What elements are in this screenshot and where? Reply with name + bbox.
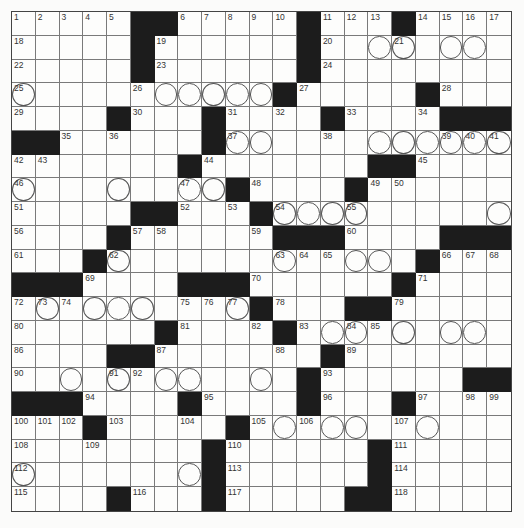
grid-cell[interactable]: 10: [273, 12, 297, 36]
grid-cell[interactable]: [60, 345, 84, 369]
grid-cell[interactable]: [250, 36, 274, 60]
grid-cell[interactable]: [131, 463, 155, 487]
grid-cell[interactable]: [321, 440, 345, 464]
grid-cell[interactable]: [226, 83, 250, 107]
grid-cell[interactable]: [487, 36, 511, 60]
grid-cell[interactable]: [83, 463, 107, 487]
grid-cell[interactable]: [487, 60, 511, 84]
grid-cell[interactable]: [60, 463, 84, 487]
grid-cell[interactable]: 35: [60, 131, 84, 155]
grid-cell[interactable]: [202, 416, 226, 440]
grid-cell[interactable]: [321, 155, 345, 179]
grid-cell[interactable]: 45: [416, 155, 440, 179]
grid-cell[interactable]: 17: [487, 12, 511, 36]
grid-cell[interactable]: 54: [273, 202, 297, 226]
grid-cell[interactable]: [345, 60, 369, 84]
grid-cell[interactable]: [487, 273, 511, 297]
grid-cell[interactable]: [250, 107, 274, 131]
grid-cell[interactable]: 50: [392, 178, 416, 202]
grid-cell[interactable]: 5: [107, 12, 131, 36]
grid-cell[interactable]: 74: [60, 297, 84, 321]
grid-cell[interactable]: [368, 131, 392, 155]
grid-cell[interactable]: [297, 345, 321, 369]
grid-cell[interactable]: [440, 60, 464, 84]
grid-cell[interactable]: [487, 83, 511, 107]
grid-cell[interactable]: 65: [321, 250, 345, 274]
grid-cell[interactable]: [321, 83, 345, 107]
grid-cell[interactable]: 25: [12, 83, 36, 107]
grid-cell[interactable]: 96: [321, 392, 345, 416]
grid-cell[interactable]: 67: [463, 250, 487, 274]
grid-cell[interactable]: [416, 368, 440, 392]
grid-cell[interactable]: [416, 487, 440, 511]
grid-cell[interactable]: [155, 273, 179, 297]
grid-cell[interactable]: [83, 60, 107, 84]
grid-cell[interactable]: 15: [440, 12, 464, 36]
grid-cell[interactable]: [226, 368, 250, 392]
grid-cell[interactable]: [321, 297, 345, 321]
grid-cell[interactable]: [250, 392, 274, 416]
grid-cell[interactable]: 58: [155, 226, 179, 250]
grid-cell[interactable]: [36, 345, 60, 369]
grid-cell[interactable]: 73: [36, 297, 60, 321]
grid-cell[interactable]: [36, 321, 60, 345]
grid-cell[interactable]: 63: [273, 250, 297, 274]
grid-cell[interactable]: 33: [345, 107, 369, 131]
grid-cell[interactable]: 56: [12, 226, 36, 250]
grid-cell[interactable]: [416, 463, 440, 487]
grid-cell[interactable]: [463, 273, 487, 297]
grid-cell[interactable]: [60, 321, 84, 345]
grid-cell[interactable]: [297, 178, 321, 202]
grid-cell[interactable]: [440, 463, 464, 487]
grid-cell[interactable]: [60, 83, 84, 107]
grid-cell[interactable]: 97: [416, 392, 440, 416]
grid-cell[interactable]: [202, 36, 226, 60]
grid-cell[interactable]: [202, 250, 226, 274]
grid-cell[interactable]: 21: [392, 36, 416, 60]
grid-cell[interactable]: [321, 178, 345, 202]
grid-cell[interactable]: [107, 463, 131, 487]
grid-cell[interactable]: [416, 60, 440, 84]
grid-cell[interactable]: [60, 36, 84, 60]
grid-cell[interactable]: [155, 83, 179, 107]
grid-cell[interactable]: [131, 273, 155, 297]
grid-cell[interactable]: [107, 297, 131, 321]
grid-cell[interactable]: 81: [178, 321, 202, 345]
grid-cell[interactable]: 89: [345, 345, 369, 369]
grid-cell[interactable]: [60, 440, 84, 464]
grid-cell[interactable]: [463, 155, 487, 179]
grid-cell[interactable]: [178, 131, 202, 155]
grid-cell[interactable]: [36, 226, 60, 250]
grid-cell[interactable]: [273, 416, 297, 440]
grid-cell[interactable]: [416, 321, 440, 345]
grid-cell[interactable]: [83, 155, 107, 179]
grid-cell[interactable]: [487, 487, 511, 511]
grid-cell[interactable]: [273, 392, 297, 416]
grid-cell[interactable]: [463, 345, 487, 369]
grid-cell[interactable]: [107, 440, 131, 464]
grid-cell[interactable]: [463, 416, 487, 440]
grid-cell[interactable]: 29: [12, 107, 36, 131]
grid-cell[interactable]: [440, 368, 464, 392]
grid-cell[interactable]: 108: [12, 440, 36, 464]
grid-cell[interactable]: [368, 250, 392, 274]
grid-cell[interactable]: [36, 463, 60, 487]
grid-cell[interactable]: [60, 60, 84, 84]
grid-cell[interactable]: [178, 345, 202, 369]
grid-cell[interactable]: [226, 392, 250, 416]
grid-cell[interactable]: 87: [155, 345, 179, 369]
grid-cell[interactable]: [131, 440, 155, 464]
grid-cell[interactable]: [178, 226, 202, 250]
grid-cell[interactable]: 86: [12, 345, 36, 369]
grid-cell[interactable]: 117: [226, 487, 250, 511]
grid-cell[interactable]: 98: [463, 392, 487, 416]
grid-cell[interactable]: [107, 202, 131, 226]
grid-cell[interactable]: [131, 297, 155, 321]
grid-cell[interactable]: [368, 107, 392, 131]
grid-cell[interactable]: [107, 178, 131, 202]
grid-cell[interactable]: [440, 297, 464, 321]
grid-cell[interactable]: [83, 297, 107, 321]
grid-cell[interactable]: [226, 226, 250, 250]
grid-cell[interactable]: 38: [321, 131, 345, 155]
grid-cell[interactable]: [321, 273, 345, 297]
